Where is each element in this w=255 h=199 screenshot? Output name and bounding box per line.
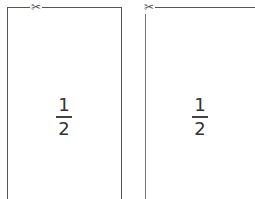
fraction-denominator: 2 bbox=[194, 120, 205, 138]
fraction-numerator: 1 bbox=[58, 96, 69, 114]
fraction-denominator: 2 bbox=[58, 120, 69, 138]
left-panel: ✂ 1 2 bbox=[7, 7, 122, 199]
scissors-icon: ✂ bbox=[143, 0, 155, 14]
fraction-numerator: 1 bbox=[194, 96, 205, 114]
fraction-one-half: 1 2 bbox=[192, 96, 208, 138]
fraction-one-half: 1 2 bbox=[56, 96, 72, 138]
right-panel: ✂ 1 2 bbox=[145, 7, 255, 199]
scissors-icon: ✂ bbox=[30, 0, 42, 14]
